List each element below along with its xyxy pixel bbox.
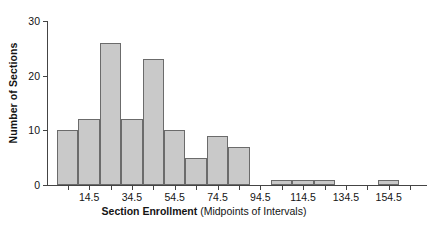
x-tick-mark	[325, 186, 326, 190]
x-tick-mark	[410, 186, 411, 190]
x-tick-mark	[196, 186, 197, 190]
x-tick-mark	[282, 186, 283, 190]
x-tick-label: 34.5	[122, 192, 142, 203]
x-tick-mark	[260, 186, 261, 190]
x-tick-label: 114.5	[290, 192, 316, 203]
y-tick-mark	[43, 185, 47, 186]
x-tick-mark	[303, 186, 304, 190]
y-tick-label: 10	[18, 125, 40, 136]
x-tick-mark	[346, 186, 347, 190]
y-tick-label: 0	[18, 180, 40, 191]
x-tick-mark	[89, 186, 90, 190]
x-tick-mark	[68, 186, 69, 190]
y-tick-label: 30	[18, 16, 40, 27]
x-tick-label: 154.5	[376, 192, 402, 203]
x-axis-title-bold: Section Enrollment	[102, 205, 198, 217]
x-tick-mark	[175, 186, 176, 190]
x-tick-mark	[389, 186, 390, 190]
x-tick-label: 54.5	[164, 192, 184, 203]
histogram-bar	[378, 180, 399, 185]
histogram-bar	[100, 43, 121, 185]
x-tick-mark	[239, 186, 240, 190]
x-tick-label: 74.5	[207, 192, 227, 203]
x-axis-title: Section Enrollment (Midpoints of Interva…	[0, 205, 408, 217]
x-axis-title-plain: (Midpoints of Intervals)	[197, 205, 306, 217]
y-tick-mark	[43, 76, 47, 77]
histogram-bar	[271, 180, 292, 185]
x-tick-mark	[218, 186, 219, 190]
histogram-bar	[57, 130, 78, 185]
x-tick-mark	[132, 186, 133, 190]
x-tick-mark	[367, 186, 368, 190]
histogram-bar	[185, 158, 206, 185]
histogram-bar	[121, 119, 142, 185]
histogram-bar	[314, 180, 335, 185]
x-tick-label: 134.5	[333, 192, 359, 203]
histogram-bar	[292, 180, 313, 185]
x-tick-mark	[153, 186, 154, 190]
y-tick-label: 20	[18, 70, 40, 81]
x-axis-line	[47, 185, 427, 186]
x-tick-label: 14.5	[79, 192, 99, 203]
y-axis-line	[47, 21, 48, 186]
x-tick-label: 94.5	[250, 192, 270, 203]
y-tick-mark	[43, 21, 47, 22]
plot-area: 0102030 14.534.554.574.594.5114.5134.515…	[0, 0, 408, 200]
histogram-bar	[228, 147, 249, 185]
histogram-bar	[164, 130, 185, 185]
histogram-bar	[207, 136, 228, 185]
histogram-bar	[78, 119, 99, 185]
x-tick-mark	[111, 186, 112, 190]
y-tick-mark	[43, 130, 47, 131]
histogram-bar	[143, 59, 164, 185]
